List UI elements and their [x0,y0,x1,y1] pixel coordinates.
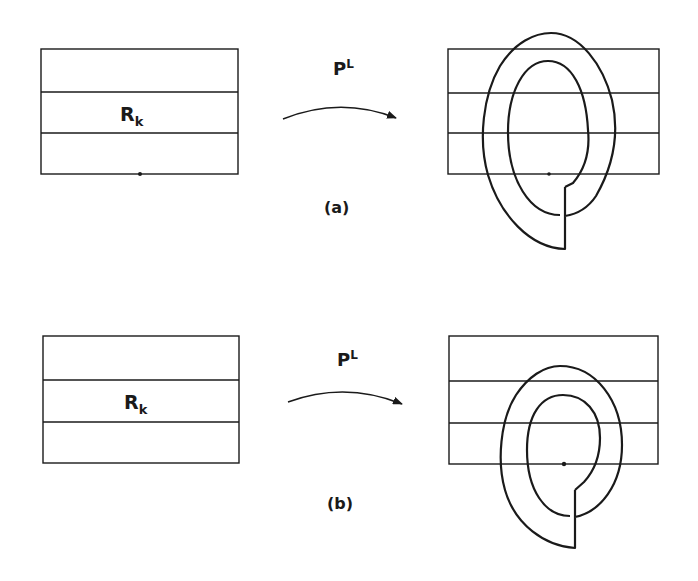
horseshoe-curve-b [501,366,622,548]
source-label-b: Rk [124,391,148,417]
image-rectangle-a [448,49,659,174]
source-rectangle-b [43,336,239,463]
fixed-point-dot-image-a [547,172,551,176]
map-label-b: PL [337,348,358,370]
panel-a: Rk PL (a) [41,33,659,249]
caption-a: (a) [324,198,349,217]
horseshoe-curve-a [483,33,615,249]
image-rectangle-b [449,336,658,464]
horseshoe-map-diagram: Rk PL (a) Rk PL (b) [0,0,698,581]
map-arrow-a [283,107,396,119]
fixed-point-dot-a [138,172,142,176]
source-label-a: Rk [120,103,144,129]
map-label-a: PL [333,57,354,79]
map-arrow-b [288,392,402,404]
source-rectangle-a [41,49,238,174]
caption-b: (b) [327,494,353,513]
fixed-point-dot-image-b [562,462,566,466]
panel-b: Rk PL (b) [43,336,658,548]
